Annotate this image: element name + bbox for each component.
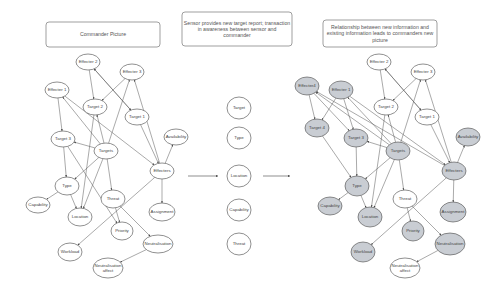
nodes: Effecter 2Effecter 3Effecter 1Target 2Ta… [26, 54, 188, 278]
edge-targets-to-type [365, 158, 390, 179]
node-label: Target 1 [419, 114, 435, 119]
edge-neutralisation-to-neutralisation_affect [120, 250, 146, 263]
edge-effecters-to-assignment [453, 180, 454, 202]
node-label: Assignment [442, 209, 466, 214]
edge-neutralisation-to-neutralisation_affect [417, 250, 438, 261]
node-assignment: Assignment [149, 203, 175, 221]
node-threat: Threat [101, 190, 125, 208]
title-line: existing information leads to commanders… [327, 30, 434, 36]
node-effecter2: Effecter 2 [367, 54, 391, 70]
node-label: Type [234, 135, 244, 140]
node-label: Target 2 [87, 104, 103, 109]
edge-target1-to-effecters [431, 125, 450, 163]
edge-targets-to-target3 [367, 141, 387, 147]
edge-type-to-capability [339, 193, 348, 200]
edge-effecter1-to-target3 [58, 98, 62, 131]
edge-targets-to-threat [399, 160, 403, 190]
edge-effecter1-to-target3 [344, 99, 354, 129]
edge-type-to-location [71, 195, 77, 209]
node-effecter3: Effecter 3 [120, 64, 144, 80]
node-label: Target 2 [378, 104, 394, 109]
node-target1: Target 1 [125, 109, 149, 125]
edge-targets-to-target3 [74, 142, 95, 148]
node-effecters: Effecters [150, 163, 174, 179]
node-label: Effecters [445, 168, 463, 173]
edge-type-to-location [361, 195, 366, 207]
node-label: Threat [107, 196, 120, 201]
edge-effecters-to-availability [165, 145, 173, 164]
node-label: Capability [28, 202, 48, 207]
node-workload: Workload [58, 243, 82, 261]
edges [309, 69, 464, 262]
edge-effecter2-to-target2 [380, 70, 385, 99]
edge-target2-to-location [81, 115, 94, 208]
node-label: Priority [406, 228, 420, 233]
edge-targets-to-target2 [97, 115, 104, 143]
node-label: Effecter 1 [332, 87, 351, 92]
node-location: Location [358, 207, 382, 227]
panel-middle: Sensor provides new target report; trans… [182, 12, 292, 255]
node-label: Capability [320, 203, 340, 208]
node-label: Effecter4 [298, 83, 316, 88]
node-neutralisation: Neutralisation [435, 233, 465, 255]
node-effecter1: Effecter 1 [45, 82, 69, 98]
node-m-capability: Capability [227, 199, 251, 221]
node-targets: Targets [94, 143, 118, 159]
panel-right: Relationship between new information and… [295, 20, 480, 278]
node-label: Threat [233, 241, 246, 246]
node-label: Location [231, 173, 248, 178]
edge-targets-to-threat [107, 159, 112, 190]
node-label: Target [233, 105, 246, 110]
edge-type-to-capability [47, 192, 58, 199]
node-effecter3: Effecter 3 [411, 64, 435, 80]
node-label: Availability [166, 134, 187, 139]
edge-effecter2-to-target2 [89, 70, 94, 99]
node-location: Location [68, 208, 92, 226]
node-m-type: Type [227, 127, 251, 149]
node-target4: Target 4 [305, 119, 329, 137]
node-priority: Priority [402, 221, 424, 241]
edge-targets-to-effecter3 [401, 80, 421, 142]
node-label: Effecter 2 [370, 59, 389, 64]
node-label: Type [352, 183, 362, 188]
node-target3: Target 3 [344, 129, 368, 147]
node-workload: Workload [351, 242, 375, 262]
title-box: Commander Picture [46, 22, 160, 47]
node-label: Assignment [151, 209, 175, 214]
node-effecter2: Effecter 2 [76, 54, 100, 70]
edge-target3-to-type [356, 147, 357, 176]
node-label: Neutralisation [145, 241, 172, 246]
node-effecters: Effecters [442, 162, 466, 180]
node-effecter4: Effecter4 [295, 77, 319, 95]
node-label: Target 1 [129, 114, 145, 119]
node-label: Threat [399, 196, 412, 201]
node-label: Location [362, 214, 379, 219]
node-label: Type [62, 183, 72, 188]
node-neutralisation-affect: Neutralisationaffect [93, 258, 123, 278]
node-label: Targets [99, 148, 114, 153]
title-line: Relationship between new information and [331, 24, 429, 30]
node-label: Targets [391, 148, 406, 153]
panel-left: Commander PictureEffecter 2Effecter 3Eff… [26, 22, 188, 278]
node-neutralisation: Neutralisation [143, 235, 173, 253]
title-line: commander [223, 32, 251, 38]
node-threat: Threat [393, 190, 417, 208]
title-line: in awareness between sensor and [198, 26, 277, 32]
node-label: Target 4 [309, 125, 325, 130]
node-assignment: Assignment [440, 202, 466, 222]
title-line: Sensor provides new target report; trans… [184, 20, 291, 26]
node-label: Target 3 [348, 135, 364, 140]
node-label: Location [72, 214, 89, 219]
title-box: Relationship between new information and… [323, 20, 437, 47]
node-label: Effecters [153, 168, 171, 173]
node-label: Workload [61, 249, 80, 254]
edge-effecter4-to-target4 [309, 95, 315, 119]
node-priority: Priority [111, 222, 133, 240]
node-target1: Target 1 [415, 109, 439, 125]
edge-targets-to-location [83, 159, 103, 209]
title-line: Commander Picture [80, 31, 126, 37]
edge-effecters-to-availability [458, 146, 465, 163]
node-label: Effecter 2 [79, 59, 98, 64]
node-label: Target 3 [55, 136, 71, 141]
node-m-location: Location [227, 165, 251, 187]
